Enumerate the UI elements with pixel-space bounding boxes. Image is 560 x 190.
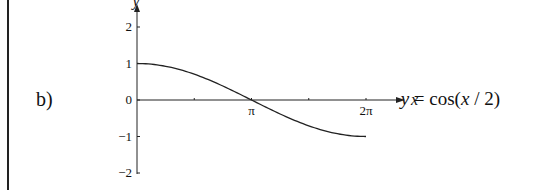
x-tick-label: 2π xyxy=(359,103,373,118)
y-tick-label: 2 xyxy=(126,19,133,34)
y-tick-label: 1 xyxy=(126,56,133,71)
y-tick-label: −2 xyxy=(118,165,132,180)
equation-rest: / 2) xyxy=(469,88,500,109)
y-tick-label: 0 xyxy=(126,92,133,107)
x-tick-label: π xyxy=(248,103,255,118)
equation-eq: = cos( xyxy=(409,88,461,109)
function-equation: y = cos(x / 2) xyxy=(401,88,500,110)
equation-arg: x xyxy=(461,88,469,109)
y-tick-label: −1 xyxy=(118,129,132,144)
y-axis-label: y xyxy=(130,0,140,10)
